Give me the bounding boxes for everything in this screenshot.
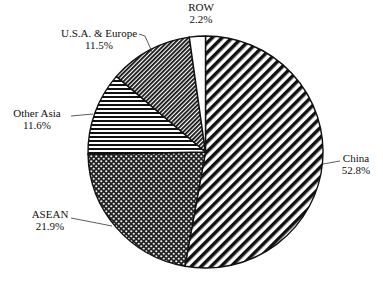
leader-line-usa-europe — [139, 34, 145, 36]
pie-slices — [88, 36, 323, 268]
slice-label-row: ROW — [188, 1, 214, 13]
pie-chart: ROW 2.2% U.S.A. & Europe 11.5% Other Asi… — [0, 0, 383, 283]
slice-label-other-asia: Other Asia — [13, 107, 60, 119]
leader-line-china — [323, 161, 340, 164]
slice-value-row: 2.2% — [190, 13, 213, 25]
slice-value-other-asia: 11.6% — [23, 119, 51, 131]
leader-line-asean — [71, 218, 112, 226]
pie-slice-asean — [88, 152, 205, 266]
slice-label-asean: ASEAN — [32, 208, 69, 220]
slice-value-china: 52.8% — [342, 164, 370, 176]
slice-value-usa-europe: 11.5% — [85, 39, 113, 51]
slice-value-asean: 21.9% — [36, 220, 64, 232]
slice-label-usa-europe: U.S.A. & Europe — [61, 27, 137, 39]
slice-label-china: China — [343, 152, 369, 164]
leader-line-other-asia — [71, 114, 93, 116]
leader-line-usa-europe-2 — [145, 36, 152, 52]
